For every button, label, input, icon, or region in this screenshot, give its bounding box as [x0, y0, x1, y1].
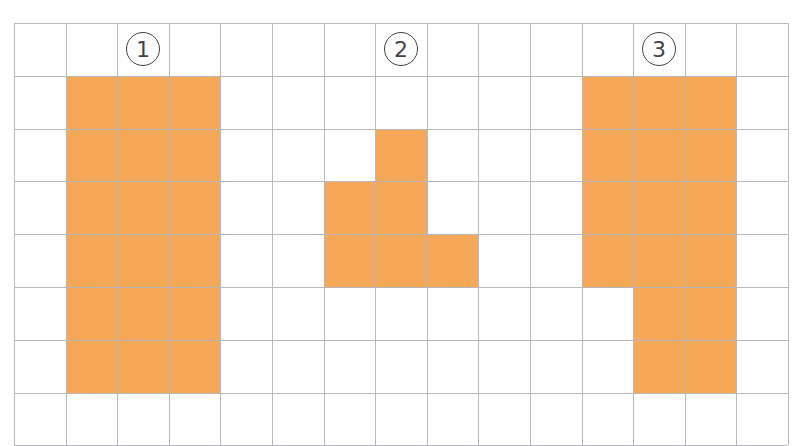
shape-1-cell — [169, 234, 222, 288]
shape-1-cell — [117, 181, 170, 235]
shape-1-cell — [169, 287, 222, 341]
shape-2-cell — [324, 234, 377, 288]
shape-1-cell — [117, 129, 170, 183]
shape-2-cell — [375, 181, 428, 235]
grid-line-horizontal — [14, 393, 788, 394]
shape-3-cell — [582, 234, 635, 288]
shape-2-cell — [375, 129, 428, 183]
shape-1-cell — [66, 129, 119, 183]
grid-line-horizontal — [14, 287, 788, 288]
grid-line-vertical — [788, 23, 789, 445]
shape-3-cell — [633, 129, 686, 183]
shape-1-cell — [66, 287, 119, 341]
shape-1-cell — [169, 181, 222, 235]
shape-1-cell — [66, 340, 119, 394]
shape-1-cell — [66, 234, 119, 288]
grid-line-horizontal — [14, 181, 788, 182]
shape-3-cell — [633, 340, 686, 394]
shape-1-cell — [66, 181, 119, 235]
grid-line-horizontal — [14, 129, 788, 130]
shape-1-cell — [117, 340, 170, 394]
shape-3-cell — [633, 287, 686, 341]
shape-1-cell — [117, 234, 170, 288]
grid-line-horizontal — [14, 76, 788, 77]
shape-1-cell — [169, 129, 222, 183]
shape-3-cell — [582, 129, 635, 183]
shape-1-label: 1 — [126, 32, 160, 66]
shape-1-cell — [117, 287, 170, 341]
shape-3-cell — [582, 181, 635, 235]
shape-2-cell — [427, 234, 480, 288]
shape-2-cell — [375, 234, 428, 288]
shape-3-cell — [633, 181, 686, 235]
shape-3-cell — [685, 340, 738, 394]
shape-3-cell — [685, 234, 738, 288]
shape-2-cell — [324, 181, 377, 235]
grid-line-horizontal — [14, 234, 788, 235]
shape-3-cell — [582, 76, 635, 130]
shape-3-cell — [685, 287, 738, 341]
shape-1-cell — [117, 76, 170, 130]
shape-3-cell — [685, 129, 738, 183]
grid-line-horizontal — [14, 340, 788, 341]
shape-3-cell — [685, 76, 738, 130]
shape-1-cell — [169, 76, 222, 130]
shape-3-cell — [633, 76, 686, 130]
shape-1-cell — [66, 76, 119, 130]
shape-2-label: 2 — [384, 32, 418, 66]
shape-3-cell — [685, 181, 738, 235]
shape-3-cell — [633, 234, 686, 288]
shape-3-label: 3 — [642, 32, 676, 66]
grid-line-horizontal — [14, 23, 788, 24]
shape-1-cell — [169, 340, 222, 394]
